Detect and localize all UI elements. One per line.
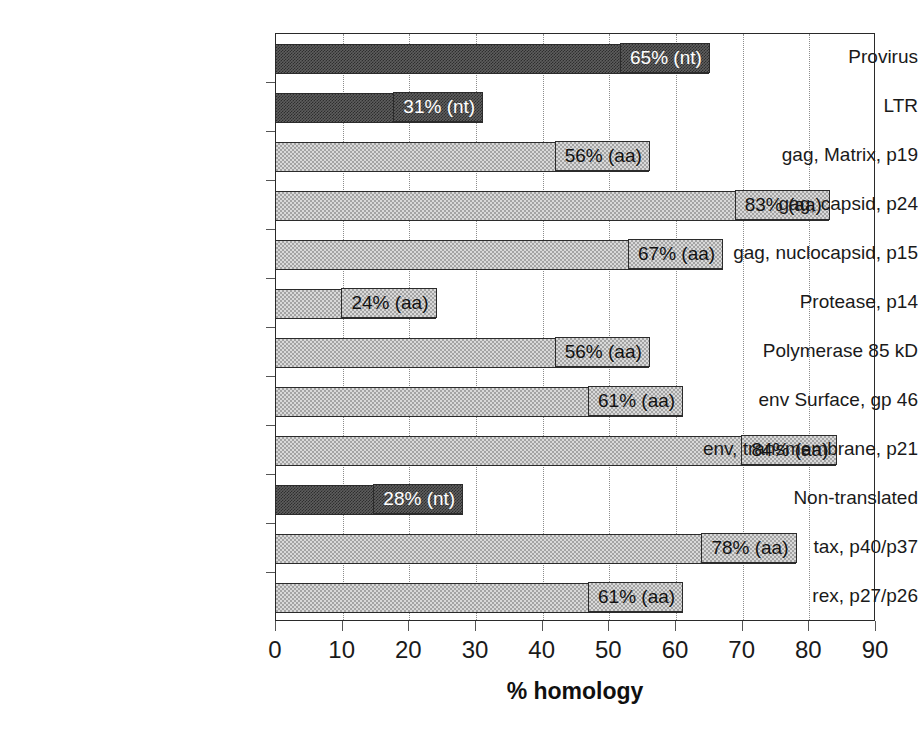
y-tick-mark	[266, 82, 275, 83]
x-tick-label-30: 30	[445, 636, 505, 664]
y-axis-label-8: env, transmembrane, p21	[656, 438, 918, 460]
bar-7[interactable]: 61% (aa)	[276, 387, 683, 417]
x-tick-mark-50	[608, 621, 609, 631]
y-tick-mark	[266, 131, 275, 132]
y-tick-mark	[266, 474, 275, 475]
x-tick-mark-30	[475, 621, 476, 631]
x-tick-mark-10	[342, 621, 343, 631]
bar-value-label: 56% (aa)	[555, 337, 650, 367]
y-axis-label-11: rex, p27/p26	[656, 585, 918, 607]
bar-11[interactable]: 61% (aa)	[276, 583, 683, 613]
x-tick-label-60: 60	[645, 636, 705, 664]
x-tick-mark-70	[742, 621, 743, 631]
y-axis-label-7: env Surface, gp 46	[656, 389, 918, 411]
y-tick-mark	[266, 229, 275, 230]
y-axis-label-9: Non-translated	[656, 487, 918, 509]
y-tick-mark	[266, 278, 275, 279]
x-tick-label-80: 80	[778, 636, 838, 664]
y-axis-label-2: gag, Matrix, p19	[656, 144, 918, 166]
y-axis-label-6: Polymerase 85 kD	[656, 340, 918, 362]
y-axis-label-3: gag, capsid, p24	[656, 193, 918, 215]
y-axis-label-1: LTR	[656, 95, 918, 117]
bar-value-label: 31% (nt)	[393, 92, 483, 122]
x-axis-title: % homology	[275, 678, 875, 705]
y-tick-mark	[266, 425, 275, 426]
bar-value-label: 24% (aa)	[341, 288, 436, 318]
x-tick-mark-0	[275, 621, 276, 631]
x-tick-mark-60	[675, 621, 676, 631]
bar-5[interactable]: 24% (aa)	[276, 289, 436, 319]
y-tick-mark	[266, 572, 275, 573]
bar-6[interactable]: 56% (aa)	[276, 338, 649, 368]
y-axis-label-5: Protease, p14	[656, 291, 918, 313]
x-tick-label-40: 40	[512, 636, 572, 664]
x-tick-label-90: 90	[845, 636, 905, 664]
bar-value-label: 56% (aa)	[555, 141, 650, 171]
bar-1[interactable]: 31% (nt)	[276, 93, 483, 123]
bar-0[interactable]: 65% (nt)	[276, 44, 709, 74]
x-tick-mark-80	[808, 621, 809, 631]
y-axis-label-0: Provirus	[656, 46, 918, 68]
x-tick-label-0: 0	[245, 636, 305, 664]
y-axis-label-4: gag, nuclocapsid, p15	[656, 242, 918, 264]
x-tick-label-70: 70	[712, 636, 772, 664]
x-tick-mark-40	[542, 621, 543, 631]
x-tick-mark-90	[875, 621, 876, 631]
x-tick-label-50: 50	[578, 636, 638, 664]
x-tick-label-10: 10	[312, 636, 372, 664]
bar-chart-figure: 65% (nt)31% (nt)56% (aa)83% (aa)67% (aa)…	[0, 0, 918, 731]
y-tick-mark	[266, 376, 275, 377]
x-tick-label-20: 20	[378, 636, 438, 664]
x-tick-mark-20	[408, 621, 409, 631]
y-tick-mark	[266, 327, 275, 328]
bar-value-label: 28% (nt)	[373, 484, 463, 514]
plot-area: 65% (nt)31% (nt)56% (aa)83% (aa)67% (aa)…	[275, 33, 875, 621]
y-tick-mark	[266, 523, 275, 524]
y-tick-mark	[266, 180, 275, 181]
bar-2[interactable]: 56% (aa)	[276, 142, 649, 172]
bar-9[interactable]: 28% (nt)	[276, 485, 463, 515]
y-axis-label-10: tax, p40/p37	[656, 536, 918, 558]
